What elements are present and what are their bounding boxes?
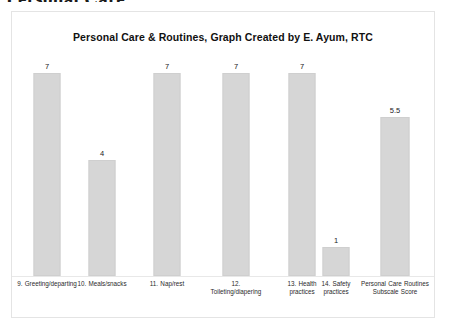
bar-value-label: 7 xyxy=(165,62,169,71)
x-axis-label: 10. Meals/snacks xyxy=(71,280,133,288)
bar-value-label: 7 xyxy=(234,62,238,71)
bar[interactable] xyxy=(89,160,116,276)
bar-slot: 7 xyxy=(154,12,181,277)
x-axis-label: 14. Safety practices xyxy=(311,280,361,297)
bar-value-label: 4 xyxy=(100,149,104,158)
x-axis-line xyxy=(12,276,434,277)
bar-value-label: 5.5 xyxy=(390,106,400,115)
bar-value-label: 1 xyxy=(334,236,338,245)
bar[interactable] xyxy=(223,73,250,276)
x-axis-label: 11. Nap/rest xyxy=(138,280,196,288)
bar-slot: 4 xyxy=(89,12,116,277)
x-axis-label: 9. Greeting/departing xyxy=(16,280,78,288)
bar-value-label: 7 xyxy=(300,62,304,71)
bar-slot: 1 xyxy=(323,12,350,277)
bar[interactable] xyxy=(289,73,316,276)
plot-area: 7477715.5 xyxy=(12,12,434,277)
bar-value-label: 7 xyxy=(45,62,49,71)
bar[interactable] xyxy=(381,117,410,277)
bar[interactable] xyxy=(34,73,61,276)
bar-slot: 7 xyxy=(34,12,61,277)
bar-slot: 5.5 xyxy=(381,12,410,277)
x-axis-label: 12. Toileting/diapering xyxy=(207,280,265,297)
x-axis-labels: 9. Greeting/departing10. Meals/snacks11.… xyxy=(12,280,434,316)
bar-slot: 7 xyxy=(289,12,316,277)
bar-slot: 7 xyxy=(223,12,250,277)
bar[interactable] xyxy=(323,247,350,276)
x-axis-label: Personal Care Routines Subscale Score xyxy=(361,280,429,297)
bar[interactable] xyxy=(154,73,181,276)
chart-container: Personal Care & Routines, Graph Created … xyxy=(11,11,435,318)
document-heading: Personal Care xyxy=(6,0,125,2)
